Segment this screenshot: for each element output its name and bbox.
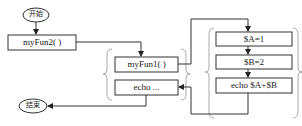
myfun2-label: myFun2( )	[8, 38, 76, 47]
echo-dots-label: echo ...	[115, 83, 178, 92]
end-label: 结束	[19, 102, 47, 109]
arrow-to-end	[48, 95, 146, 106]
myfun1-label: myFun1( )	[115, 60, 178, 69]
brace-right-myfun1-body	[293, 28, 302, 118]
assign-b-label: $B=2	[216, 58, 292, 67]
brace-left-myfun1-body	[205, 28, 214, 118]
brace-right-myfun2-body	[181, 49, 190, 100]
echo-sum-label: echo $A+$B	[216, 81, 292, 90]
start-label: 开始	[23, 11, 49, 18]
brace-left-myfun2-body	[103, 49, 112, 100]
arrow-myfun2-to-myfun1	[76, 42, 141, 56]
assign-a-label: $A=1	[216, 35, 292, 44]
